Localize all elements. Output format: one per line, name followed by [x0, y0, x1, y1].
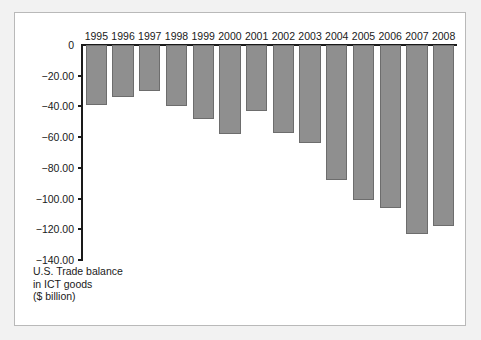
x-axis-tick-label: 2006: [379, 30, 402, 42]
bar-chart: 0−20.00−40.00−60.00−80.00−100.00−120.00−…: [15, 13, 467, 327]
bar-slot: 2006: [380, 45, 401, 260]
figure-container: 0−20.00−40.00−60.00−80.00−100.00−120.00−…: [0, 0, 481, 340]
bar-slot: 2004: [326, 45, 347, 260]
bar-slot: 1997: [139, 45, 160, 260]
y-axis-tick-label: −80.00: [42, 162, 74, 174]
bar-slot: 1999: [193, 45, 214, 260]
bar-group: 1995199619971998199920002001200220032004…: [83, 45, 457, 260]
bar: [166, 45, 187, 106]
y-axis-tick-label: −40.00: [42, 100, 74, 112]
y-axis-tick-label: −20.00: [42, 70, 74, 82]
bar: [353, 45, 374, 200]
bar-slot: 2003: [299, 45, 320, 260]
chart-caption: U.S. Trade balance in ICT goods ($ billi…: [33, 265, 123, 303]
x-axis-tick-label: 1997: [138, 30, 161, 42]
bar-slot: 2000: [219, 45, 240, 260]
y-axis-tick-label: −100.00: [36, 193, 74, 205]
bar: [246, 45, 267, 111]
bar: [406, 45, 427, 234]
y-axis-tick: −120.00: [15, 223, 83, 235]
bar-slot: 1995: [86, 45, 107, 260]
bar-slot: 1996: [112, 45, 133, 260]
y-axis-tick: −40.00: [15, 100, 83, 112]
bar: [219, 45, 240, 134]
x-axis-tick-label: 2001: [245, 30, 268, 42]
y-axis-tick: −60.00: [15, 131, 83, 143]
y-axis-tick: −80.00: [15, 162, 83, 174]
y-axis-tick-label: −60.00: [42, 131, 74, 143]
bar-slot: 1998: [166, 45, 187, 260]
bar: [273, 45, 294, 133]
bar: [380, 45, 401, 208]
bar: [86, 45, 107, 105]
y-axis-tick: 0: [15, 39, 83, 51]
x-axis-tick-label: 1995: [85, 30, 108, 42]
bar: [193, 45, 214, 119]
bar-slot: 2007: [406, 45, 427, 260]
bar: [112, 45, 133, 97]
x-axis-tick-label: 2003: [298, 30, 321, 42]
chart-plate: 0−20.00−40.00−60.00−80.00−100.00−120.00−…: [14, 12, 466, 326]
bar: [326, 45, 347, 180]
y-axis-tick-label: 0: [68, 39, 74, 51]
y-axis-tick: −20.00: [15, 70, 83, 82]
x-axis-tick-label: 2000: [218, 30, 241, 42]
x-axis-tick-label: 1999: [192, 30, 215, 42]
bar-slot: 2002: [273, 45, 294, 260]
x-axis-tick-label: 1996: [111, 30, 134, 42]
x-axis-tick-label: 2007: [405, 30, 428, 42]
bar: [433, 45, 454, 226]
x-axis-tick-label: 2005: [352, 30, 375, 42]
bar-slot: 2005: [353, 45, 374, 260]
x-axis-tick-label: 2008: [432, 30, 455, 42]
x-axis-tick-label: 2002: [272, 30, 295, 42]
x-axis-tick-label: 2004: [325, 30, 348, 42]
x-axis-tick-label: 1998: [165, 30, 188, 42]
bar: [139, 45, 160, 91]
y-axis-tick: −100.00: [15, 193, 83, 205]
bar-slot: 2008: [433, 45, 454, 260]
bar-slot: 2001: [246, 45, 267, 260]
y-axis-tick-label: −120.00: [36, 223, 74, 235]
bar: [299, 45, 320, 143]
